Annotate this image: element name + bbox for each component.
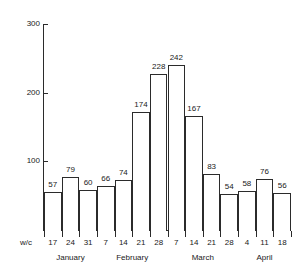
x-tick [256,231,257,237]
x-tick [291,231,292,237]
bar [168,65,186,231]
bar [115,180,133,231]
x-tick [115,231,116,237]
x-tick-label: 14 [185,239,203,247]
x-tick [203,231,204,237]
x-tick [79,231,80,237]
x-tick-label: 18 [273,239,291,247]
y-tick-label-200: 200 [8,89,40,97]
bar-value-label: 228 [146,63,172,71]
x-tick-label: 11 [256,239,274,247]
y-tick-label-300: 300 [8,20,40,28]
x-tick [185,231,186,237]
month-label: February [97,254,168,262]
bar-value-label: 56 [269,182,294,190]
x-tick [220,231,221,237]
x-tick [168,231,169,237]
x-tick-label: 17 [44,239,62,247]
month-label: April [238,254,291,262]
x-tick [132,231,133,237]
x-tick-label: 14 [115,239,133,247]
bar [97,186,115,231]
bar-value-label: 58 [234,180,260,188]
x-tick-label: 31 [79,239,97,247]
bar [79,190,97,231]
bar-value-label: 74 [111,169,137,177]
bar-value-label: 57 [40,181,66,189]
x-tick [62,231,63,237]
x-tick [44,231,45,237]
x-tick [150,231,151,237]
bar-value-label: 83 [199,163,225,171]
bar [220,194,238,231]
x-tick-label: 28 [220,239,238,247]
x-tick-label: 24 [62,239,80,247]
bar-chart: 100200300 577960667417422824216783545876… [0,0,294,274]
bar [150,74,168,231]
week-commencing-label: w/c [20,239,32,247]
x-tick [273,231,274,237]
bar [44,192,62,231]
bar-value-label: 167 [181,105,207,113]
bar-value-label: 76 [252,168,278,176]
y-tick-label-100: 100 [8,157,40,165]
x-tick-label: 21 [132,239,150,247]
bar-value-label: 174 [128,101,154,109]
month-label: March [168,254,239,262]
month-label: January [44,254,97,262]
x-tick-label: 21 [203,239,221,247]
x-tick [238,231,239,237]
x-tick [97,231,98,237]
bar [185,116,203,231]
bar [238,191,256,231]
bar-value-label: 79 [58,166,84,174]
x-tick-label: 28 [150,239,168,247]
bar-value-label: 242 [164,54,190,62]
bar [273,193,291,231]
x-tick-label: 7 [97,239,115,247]
x-tick-label: 7 [168,239,186,247]
x-tick-label: 4 [238,239,256,247]
